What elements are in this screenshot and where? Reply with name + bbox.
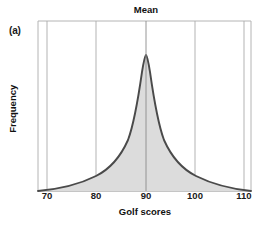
figure-panel: (a) Mean Frequency Golf scores 70 80 90 … (0, 0, 267, 228)
distribution-fill-area (38, 55, 251, 191)
distribution-plot (0, 0, 267, 228)
